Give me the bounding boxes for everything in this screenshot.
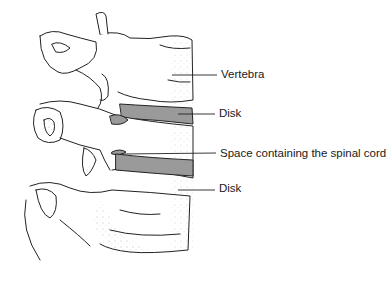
label-disk-lower: Disk: [219, 183, 241, 195]
spine-diagram: Vertebra Disk Space containing the spina…: [0, 0, 389, 286]
label-spinal-space: Space containing the spinal cord: [220, 148, 386, 160]
label-disk-upper: Disk: [219, 108, 241, 120]
label-vertebra: Vertebra: [221, 69, 264, 81]
spine-illustration: [0, 0, 389, 286]
